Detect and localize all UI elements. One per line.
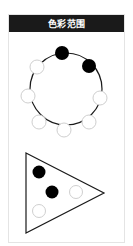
dot-empty — [30, 60, 44, 74]
dot-empty — [93, 91, 107, 105]
dot-filled — [82, 59, 96, 73]
dot-empty — [70, 186, 83, 199]
dot-empty — [33, 205, 46, 218]
dot-filled — [46, 186, 59, 199]
dot-filled — [33, 166, 46, 179]
dot-empty — [57, 123, 71, 137]
triangle-diagram — [26, 153, 104, 233]
dot-empty — [82, 115, 96, 129]
dot-filled — [55, 46, 69, 60]
dot-empty — [32, 115, 46, 129]
dot-empty — [21, 89, 35, 103]
circle-diagram — [21, 46, 107, 137]
triangle-outline — [26, 153, 104, 233]
diagram-canvas — [0, 0, 133, 246]
